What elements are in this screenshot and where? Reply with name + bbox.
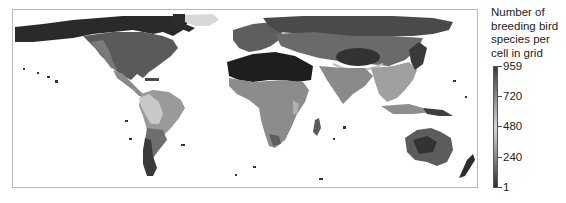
legend-title: Number of breeding bird species per cell… (491, 6, 566, 60)
legend-title-line: cell in grid (491, 47, 566, 61)
tick-label-1: 1 (503, 181, 509, 193)
legend-title-line: breeding bird (491, 20, 566, 34)
colorbar-tick (498, 187, 502, 188)
map-canvas (13, 10, 478, 188)
colorbar-tick (498, 96, 502, 97)
colorbar (493, 66, 498, 188)
legend-title-line: Number of (491, 6, 566, 20)
region-greenland (183, 14, 219, 26)
world-map (12, 9, 478, 188)
legend-title-line: species per (491, 33, 566, 47)
tick-label-720: 720 (503, 90, 522, 102)
region-tibet (336, 48, 380, 66)
region-southeast-asia (371, 62, 417, 102)
tick-label-240: 240 (503, 151, 522, 163)
tick-label-959: 959 (503, 60, 522, 72)
colorbar-tick (498, 126, 502, 127)
tick-label-480: 480 (503, 120, 522, 132)
colorbar-tick (498, 157, 502, 158)
region-caribbean (145, 78, 159, 81)
region-north-america (83, 32, 178, 80)
region-sahara-arabia (227, 52, 313, 82)
region-new-guinea (423, 108, 453, 116)
region-south-asia (319, 66, 373, 104)
region-new-zealand (459, 154, 475, 178)
colorbar-tick (498, 66, 502, 67)
region-madagascar (313, 118, 321, 136)
